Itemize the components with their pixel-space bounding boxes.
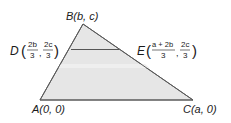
paren-close: ) <box>54 42 59 59</box>
e-y-denominator: 3 <box>183 51 188 60</box>
comma: , <box>176 48 179 58</box>
e-x-numerator: a + 2b <box>152 40 173 49</box>
label-c: C(a, 0) <box>183 103 217 115</box>
paren-close: ) <box>192 42 197 59</box>
d-y-numerator: 2c <box>44 40 52 49</box>
d-y-denominator: 3 <box>46 51 51 60</box>
triangle-diagram: B(b, c) D ( 2b 3 , 2c 3 ) E ( a + 2b 3 ,… <box>0 0 231 123</box>
e-x-denominator: 3 <box>161 51 166 60</box>
d-x-denominator: 3 <box>30 51 35 60</box>
triangle-abc <box>40 24 193 100</box>
label-e-letter: E <box>137 44 146 58</box>
paren-open: ( <box>21 42 26 59</box>
label-e: E ( a + 2b 3 , 2c 3 ) <box>137 40 197 60</box>
d-x-numerator: 2b <box>28 40 37 49</box>
label-d-letter: D <box>10 44 19 58</box>
e-y-numerator: 2c <box>181 40 189 49</box>
label-d: D ( 2b 3 , 2c 3 ) <box>10 40 59 60</box>
paren-open: ( <box>146 42 151 59</box>
comma: , <box>39 48 42 58</box>
label-a: A(0, 0) <box>31 103 65 115</box>
lighter-band <box>58 64 149 68</box>
label-b: B(b, c) <box>66 10 99 22</box>
